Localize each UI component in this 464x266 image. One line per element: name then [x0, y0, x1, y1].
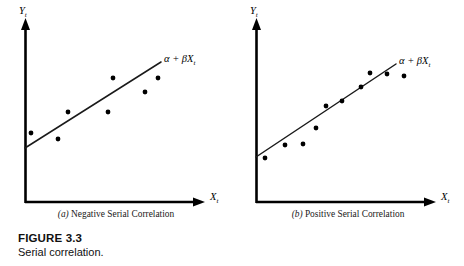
panel-b-caption-text: Positive Serial Correlation	[305, 209, 404, 219]
y-axis-arrow-a	[21, 18, 30, 30]
scatter-plot-a: Yt Xt α + βXt	[0, 0, 232, 210]
chart-panel-a: Yt Xt α + βXt (a) Negative Serial Corr	[0, 0, 232, 232]
regression-equation-subscript-b: t	[429, 61, 432, 69]
data-point	[402, 74, 407, 79]
data-point	[283, 143, 288, 148]
regression-equation-subscript-a: t	[194, 59, 197, 67]
x-axis-arrow-b	[424, 198, 436, 207]
x-axis-label-b: Xt	[440, 191, 450, 205]
data-point	[324, 104, 329, 109]
data-point	[143, 90, 148, 95]
y-axis-label-b: Yt	[250, 5, 259, 19]
y-axis-label-a: Yt	[19, 5, 28, 19]
data-point	[56, 137, 61, 142]
data-point	[156, 76, 161, 81]
data-point	[106, 110, 111, 115]
figure-container: Yt Xt α + βXt (a) Negative Serial Corr	[0, 0, 464, 266]
x-axis-label-a: Xt	[209, 191, 219, 205]
data-point	[301, 142, 306, 147]
data-point	[359, 85, 364, 90]
y-axis-arrow-b	[252, 18, 261, 30]
chart-panel-b: Yt Xt α + βXt (b)	[232, 0, 464, 232]
panel-a-tag: (a)	[58, 209, 69, 219]
figure-caption: FIGURE 3.3 Serial correlation.	[18, 231, 258, 259]
x-axis-subscript-a: t	[216, 197, 219, 205]
regression-equation-label-b: α + βXt	[399, 55, 432, 69]
x-axis-subscript-b: t	[447, 197, 450, 205]
data-point	[111, 76, 116, 81]
scatter-plot-b: Yt Xt α + βXt	[232, 0, 464, 210]
panel-b-tag: (b)	[292, 209, 303, 219]
regression-equation-text-a: α + βX	[164, 53, 194, 64]
panel-a-subcaption: (a) Negative Serial Correlation	[0, 209, 232, 219]
y-axis-subscript-b: t	[256, 11, 259, 19]
data-point	[66, 110, 71, 115]
data-point	[368, 71, 373, 76]
y-axis-subscript-a: t	[25, 11, 28, 19]
x-axis-arrow-a	[193, 198, 205, 207]
regression-line-b	[256, 64, 396, 157]
regression-equation-text-b: α + βX	[399, 55, 429, 66]
figure-title: Serial correlation.	[18, 245, 258, 259]
data-point	[314, 126, 319, 131]
data-point	[340, 99, 345, 104]
data-point	[263, 156, 268, 161]
panel-a-caption-text: Negative Serial Correlation	[71, 209, 174, 219]
data-point	[385, 72, 390, 77]
regression-equation-label-a: α + βXt	[164, 53, 197, 67]
data-point	[29, 131, 34, 136]
panel-b-subcaption: (b) Positive Serial Correlation	[232, 209, 464, 219]
figure-number: FIGURE 3.3	[18, 231, 258, 245]
regression-line-a	[25, 62, 161, 148]
